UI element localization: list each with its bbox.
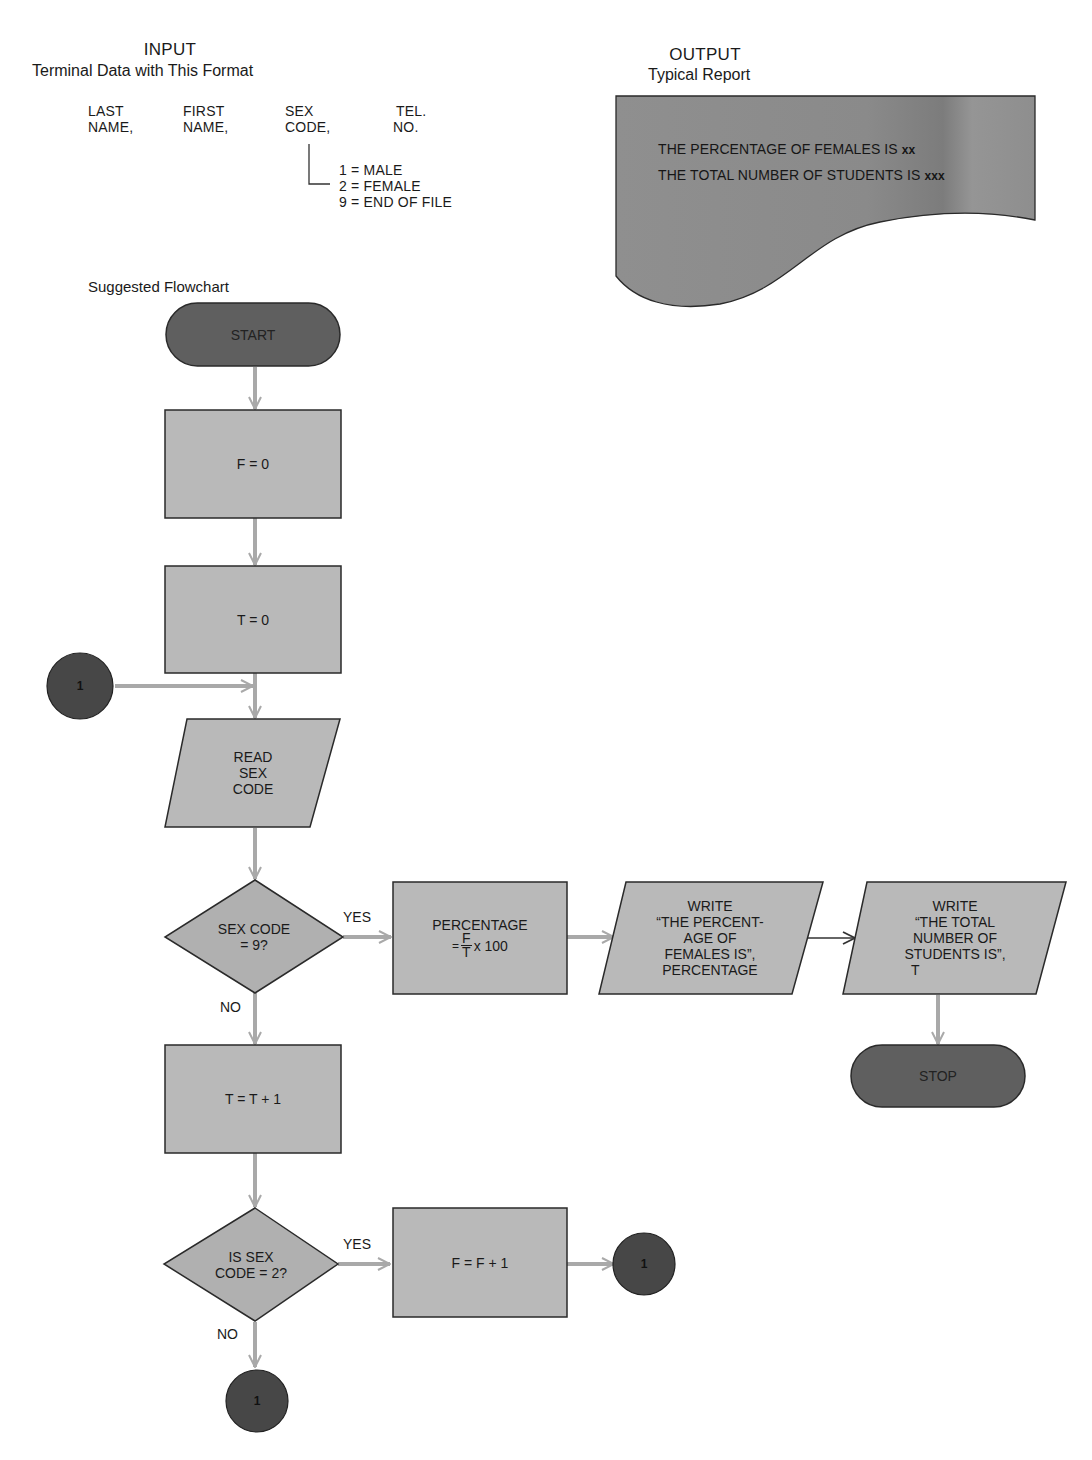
decision-eof: SEX CODE = 9?: [165, 880, 343, 993]
loop-connector-out-yes: 1: [613, 1233, 675, 1295]
write-line: STUDENTS IS”,: [904, 946, 1005, 962]
write-line: NUMBER OF: [913, 930, 997, 946]
calc-percentage: PERCENTAGE = F T x 100: [393, 882, 567, 994]
write-line: “THE PERCENT-: [656, 914, 763, 930]
write-total: WRITE “THE TOTAL NUMBER OF STUDENTS IS”,…: [860, 892, 1050, 984]
write-line: FEMALES IS”,: [664, 946, 755, 962]
init-f-process: F = 0: [165, 410, 341, 518]
incr-t-process: T = T + 1: [165, 1045, 341, 1153]
init-t-process: T = 0: [165, 566, 341, 673]
decision-line: = 9?: [240, 937, 268, 953]
write-line: “THE TOTAL: [915, 914, 995, 930]
read-line: SEX: [239, 765, 267, 781]
stop-terminal: STOP: [851, 1045, 1025, 1107]
connector-label: 1: [641, 1256, 648, 1272]
formula-equals: =: [452, 938, 459, 954]
stop-label: STOP: [919, 1068, 957, 1084]
start-label: START: [231, 327, 276, 343]
incr-t-label: T = T + 1: [225, 1091, 281, 1107]
read-line: CODE: [233, 781, 273, 797]
connector-label: 1: [254, 1393, 261, 1409]
read-input: READ SEX CODE: [170, 719, 336, 827]
fraction-denominator: T: [462, 946, 471, 959]
connector-label: 1: [77, 678, 84, 694]
branch-female-yes: YES: [343, 1236, 371, 1252]
percentage-formula: = F T x 100: [452, 932, 508, 959]
incr-f-label: F = F + 1: [452, 1255, 509, 1271]
branch-eof-yes: YES: [343, 909, 371, 925]
write-percentage: WRITE “THE PERCENT- AGE OF FEMALES IS”, …: [615, 892, 805, 984]
decision-line: IS SEX: [228, 1249, 273, 1265]
incr-f-process: F = F + 1: [393, 1208, 567, 1317]
branch-female-no: NO: [217, 1326, 238, 1342]
write-line: WRITE: [687, 898, 732, 914]
write-line: WRITE: [932, 898, 977, 914]
read-line: READ: [234, 749, 273, 765]
write-line: PERCENTAGE: [662, 962, 757, 978]
loop-connector-out-no: 1: [226, 1370, 288, 1432]
write-line: T: [911, 962, 920, 978]
branch-eof-no: NO: [220, 999, 241, 1015]
decision-line: CODE = 2?: [215, 1265, 287, 1281]
start-terminal: START: [166, 303, 340, 366]
fraction-f-over-t: F T: [461, 932, 472, 959]
write-line: AGE OF: [684, 930, 737, 946]
percentage-label: PERCENTAGE: [432, 917, 527, 933]
init-t-label: T = 0: [237, 612, 269, 628]
init-f-label: F = 0: [237, 456, 269, 472]
decision-female: IS SEX CODE = 2?: [164, 1208, 338, 1321]
loop-connector-in: 1: [47, 653, 113, 719]
formula-multiplier: x 100: [474, 938, 508, 954]
decision-line: SEX CODE: [218, 921, 290, 937]
